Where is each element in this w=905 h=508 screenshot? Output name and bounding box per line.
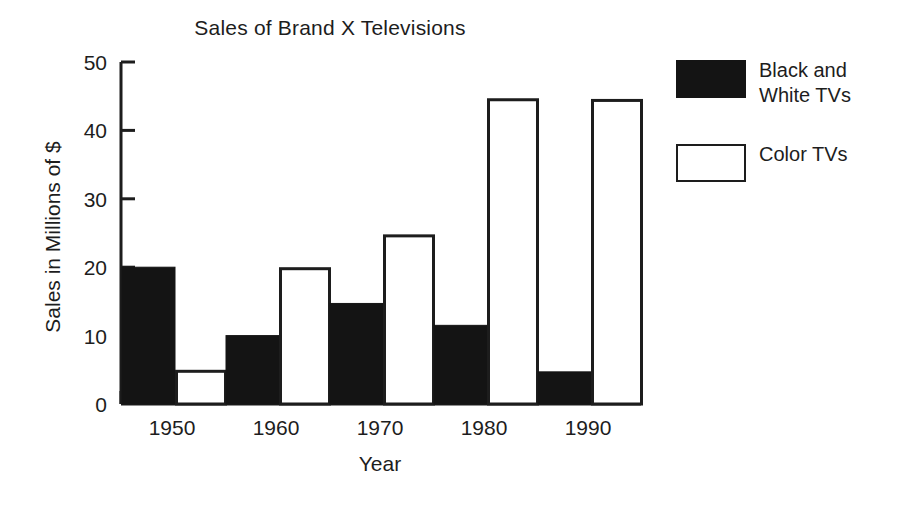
y-tick-label: 30 — [84, 188, 107, 211]
bar-black-and-white — [226, 336, 279, 404]
legend-item-black-and-white: Black and White TVs — [676, 58, 901, 108]
bar-color-tv — [593, 100, 642, 404]
x-tick-labels: 19501960197019801990 — [149, 416, 612, 439]
legend-item-color: Color TVs — [676, 142, 901, 182]
x-tick-label: 1980 — [461, 416, 508, 439]
x-tick-label: 1950 — [149, 416, 196, 439]
x-tick-label: 1960 — [253, 416, 300, 439]
bar-black-and-white — [330, 303, 383, 404]
legend-swatch-hollow — [676, 144, 746, 182]
legend-swatch-filled — [676, 60, 746, 98]
bars — [122, 100, 642, 404]
bar-black-and-white — [122, 267, 175, 404]
y-tick-labels: 01020304050 — [84, 51, 107, 416]
y-tick-label: 20 — [84, 256, 107, 279]
bar-black-and-white — [538, 372, 591, 404]
bar-color-tv — [177, 371, 226, 404]
y-tick-label: 10 — [84, 325, 107, 348]
legend-label-black-and-white: Black and White TVs — [759, 58, 887, 108]
bar-color-tv — [281, 269, 330, 404]
x-tick-label: 1990 — [565, 416, 612, 439]
x-tick-label: 1970 — [357, 416, 404, 439]
x-axis-title: Year — [120, 452, 640, 476]
bar-black-and-white — [434, 325, 487, 404]
y-tick-label: 0 — [95, 393, 107, 416]
chart-legend: Black and White TVs Color TVs — [676, 58, 901, 216]
legend-label-color: Color TVs — [759, 142, 848, 167]
bar-color-tv — [385, 236, 434, 404]
bar-chart: Sales of Brand X Televisions Sales in Mi… — [0, 0, 905, 508]
bar-color-tv — [489, 100, 538, 404]
y-tick-label: 50 — [84, 51, 107, 74]
y-tick-label: 40 — [84, 119, 107, 142]
